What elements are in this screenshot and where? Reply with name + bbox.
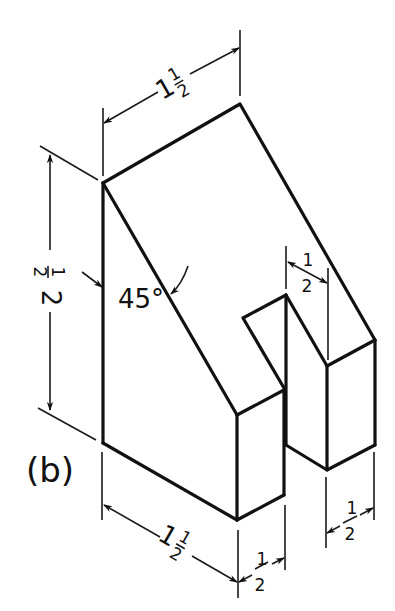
dimension-bottom-depth: 1 2 [239,505,285,595]
right-depth-num: 1 [347,498,358,518]
dimension-angle: 45° [82,266,188,314]
bottom-front-edge [103,443,237,520]
dimension-top-width: 1 1 2 [103,30,240,176]
dimension-height: 2 1 2 [30,146,98,440]
height-den: 2 [30,267,50,278]
right-block-bottom-edge [286,445,375,470]
front-step-bottom-edge [237,495,284,520]
height-num: 1 [48,267,68,278]
isometric-drawing: 1 1 2 2 1 2 45° 1 2 [0,0,395,611]
figure-caption: (b) [26,450,74,490]
slot-width-num: 1 [303,250,314,270]
bottom-depth-den: 2 [255,575,266,595]
angle-label: 45° [118,284,164,314]
right-block-slope-edge [286,295,327,366]
height-whole: 2 [36,290,66,307]
front-step-top-edge [237,390,284,415]
right-block-top-edge [327,340,375,366]
slot-width-den: 2 [302,276,313,296]
slot-back-edge [243,295,286,388]
dimension-bottom-length: 1 1 2 [102,452,238,598]
right-depth-den: 2 [345,524,356,544]
